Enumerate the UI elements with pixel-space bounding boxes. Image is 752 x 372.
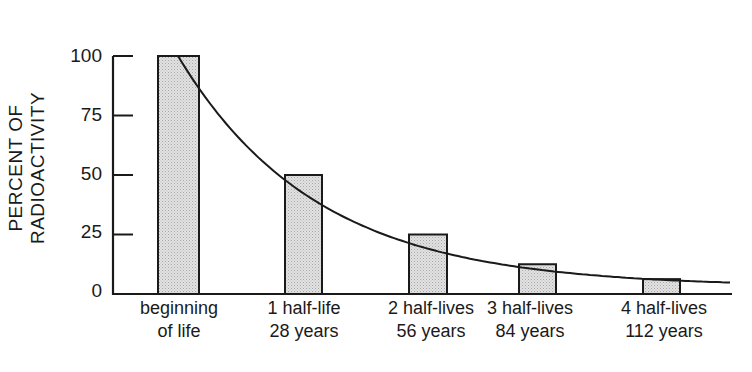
bars	[158, 56, 680, 294]
x-category-0: beginning of life	[114, 297, 244, 343]
x-category-1: 1 half-life 28 years	[239, 297, 369, 343]
decay-curve	[178, 56, 730, 283]
y-ticks	[113, 56, 133, 235]
bar-2	[409, 235, 447, 295]
x-category-3: 3 half-lives 84 years	[465, 297, 595, 343]
decay-chart: PERCENT OF RADIOACTIVITY 100 75 50 25 0 …	[0, 0, 752, 372]
bar-0	[158, 56, 199, 294]
x-category-4: 4 half-lives 112 years	[599, 297, 729, 343]
